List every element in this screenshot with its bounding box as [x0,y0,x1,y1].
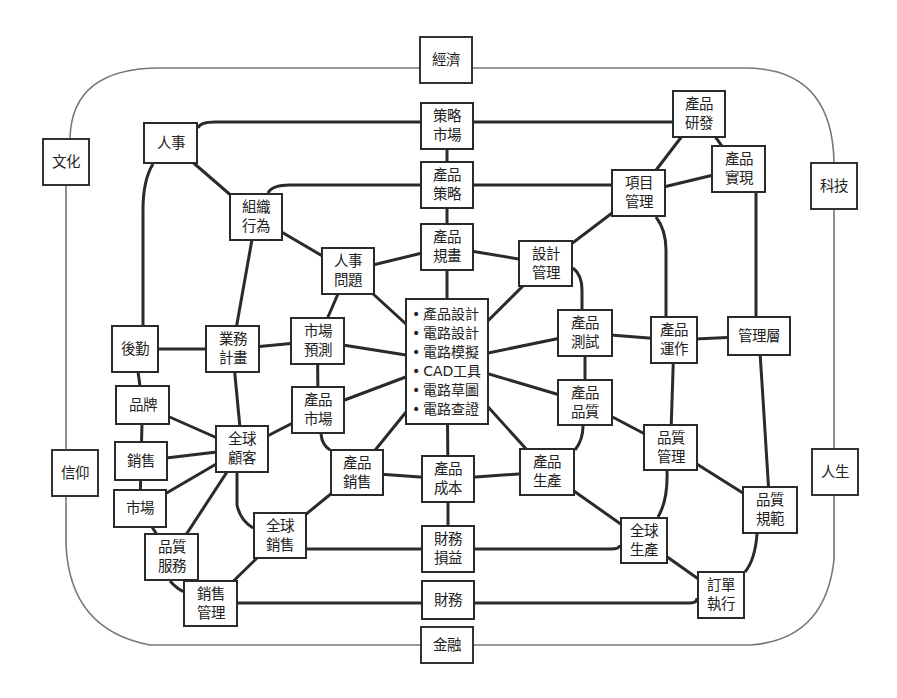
node-product-sales: 產品銷售 [330,449,384,496]
node-label: 銷售 [127,452,155,471]
node-strategic-market: 策略市場 [420,102,474,150]
node-label: 金融 [433,636,461,655]
node-label: 規範 [756,510,784,529]
node-label: 問題 [334,271,362,290]
node-project-mgmt: 項目管理 [611,169,666,217]
connector-finance-pl-to-global-production [475,545,620,549]
node-label: 策略 [433,185,461,204]
node-label: 科技 [820,177,848,196]
node-label: 產品 [660,321,688,340]
node-biz-plan: 業務計畫 [205,325,260,373]
node-label: 執行 [707,595,735,614]
node-label: 全球 [266,517,294,536]
node-label: 市場 [304,410,332,429]
node-global-customer: 全球顧客 [215,425,269,473]
node-label: 產品 [725,150,753,169]
node-global-sales: 全球銷售 [253,512,307,559]
node-brand: 品牌 [115,385,170,425]
connector-finance-dept-to-order-exec [475,598,697,603]
node-finance-dept: 財務 [421,580,475,620]
node-label: 產品 [343,454,371,473]
node-label: 產品設計 [412,305,479,324]
node-label: 電路查證 [412,400,479,419]
mind-map-diagram: 經濟文化科技信仰人生金融策略市場人事產品研發產品策略產品實現項目管理組織行為產品… [0,0,897,698]
node-product-planning: 產品規畫 [420,223,474,271]
connector-hr-to-strategic-market [198,122,420,128]
node-label: 全球 [228,430,256,449]
node-label: 銷售 [266,536,294,555]
node-product-market: 產品市場 [291,386,345,434]
node-label: 服務 [158,557,186,576]
node-label: 管理 [197,604,225,623]
node-label: 設計 [532,245,560,264]
node-label: 顧客 [228,449,256,468]
node-label: 管理 [657,448,685,467]
node-economy: 經濟 [419,36,473,84]
node-label: 人事 [334,252,362,271]
node-design-tools: 產品設計電路設計電路模擬CAD工具電路草圖電路查證 [405,298,489,425]
node-label: 品質 [657,429,685,448]
node-hr: 人事 [143,122,198,164]
node-label: 訂單 [707,576,735,595]
node-label: 品質 [158,538,186,557]
connector-quality-spec-to-order-exec [745,534,757,572]
node-production: 產品生產 [519,448,575,496]
node-label: CAD工具 [412,362,481,381]
outer-connector-ring-top-right [473,68,834,162]
node-product-quality: 產品品質 [557,379,613,426]
node-sales: 銷售 [114,441,168,481]
connector-design-mgmt-to-product-test [573,268,582,309]
node-logistics: 後勤 [111,325,159,373]
node-label: 全球 [630,522,658,541]
connector-org-behavior-to-product-strategy [268,185,420,193]
node-label: 預測 [304,341,332,360]
node-label: 運作 [660,340,688,359]
node-label: 管理 [532,264,560,283]
node-label: 品質 [756,491,784,510]
node-label: 產品 [533,453,561,472]
outer-connector-ring-top-left [70,68,419,138]
node-label: 實現 [725,169,753,188]
connector-quality-mgmt-to-global-production [658,471,667,517]
node-label: 後勤 [121,340,149,359]
node-finance-pl: 財務損益 [421,525,475,573]
node-hr-issues: 人事問題 [321,247,375,295]
node-product-test: 產品測試 [557,309,613,357]
node-product-strategy: 產品策略 [420,161,474,209]
node-label: 產品 [434,460,462,479]
node-label: 行為 [242,217,270,236]
connector-global-customer-to-global-sales [237,473,253,528]
node-label: 產品 [433,166,461,185]
node-finance: 金融 [420,626,474,664]
node-order-exec: 訂單執行 [697,571,745,619]
node-rd: 產品研發 [672,90,726,138]
node-label: 銷售 [197,585,225,604]
node-sales-mgmt: 銷售管理 [183,580,238,627]
node-market-forecast: 市場預測 [290,317,345,365]
node-label: 市場 [433,126,461,145]
node-label: 產品 [685,95,713,114]
node-label: 生產 [630,541,658,560]
node-label: 業務 [219,330,247,349]
node-label: 人生 [821,463,849,482]
node-label: 經濟 [432,51,460,70]
node-label: 電路草圖 [412,381,479,400]
node-label: 損益 [434,549,462,568]
node-label: 產品 [433,228,461,247]
node-label: 產品 [304,391,332,410]
node-label: 管理 [625,193,653,212]
node-label: 銷售 [343,473,371,492]
node-label: 測試 [571,333,599,352]
node-product-ops: 產品運作 [650,316,698,364]
node-label: 生產 [533,472,561,491]
node-label: 財務 [434,530,462,549]
node-market: 市場 [113,489,167,528]
node-label: 電路設計 [412,324,479,343]
node-label: 組織 [242,198,270,217]
node-label: 成本 [434,479,462,498]
connector-product-market-to-product-sales [321,434,330,450]
node-quality-service: 品質服務 [144,533,199,581]
node-label: 計畫 [219,349,247,368]
node-belief: 信仰 [51,449,99,497]
node-label: 品質 [571,403,599,422]
